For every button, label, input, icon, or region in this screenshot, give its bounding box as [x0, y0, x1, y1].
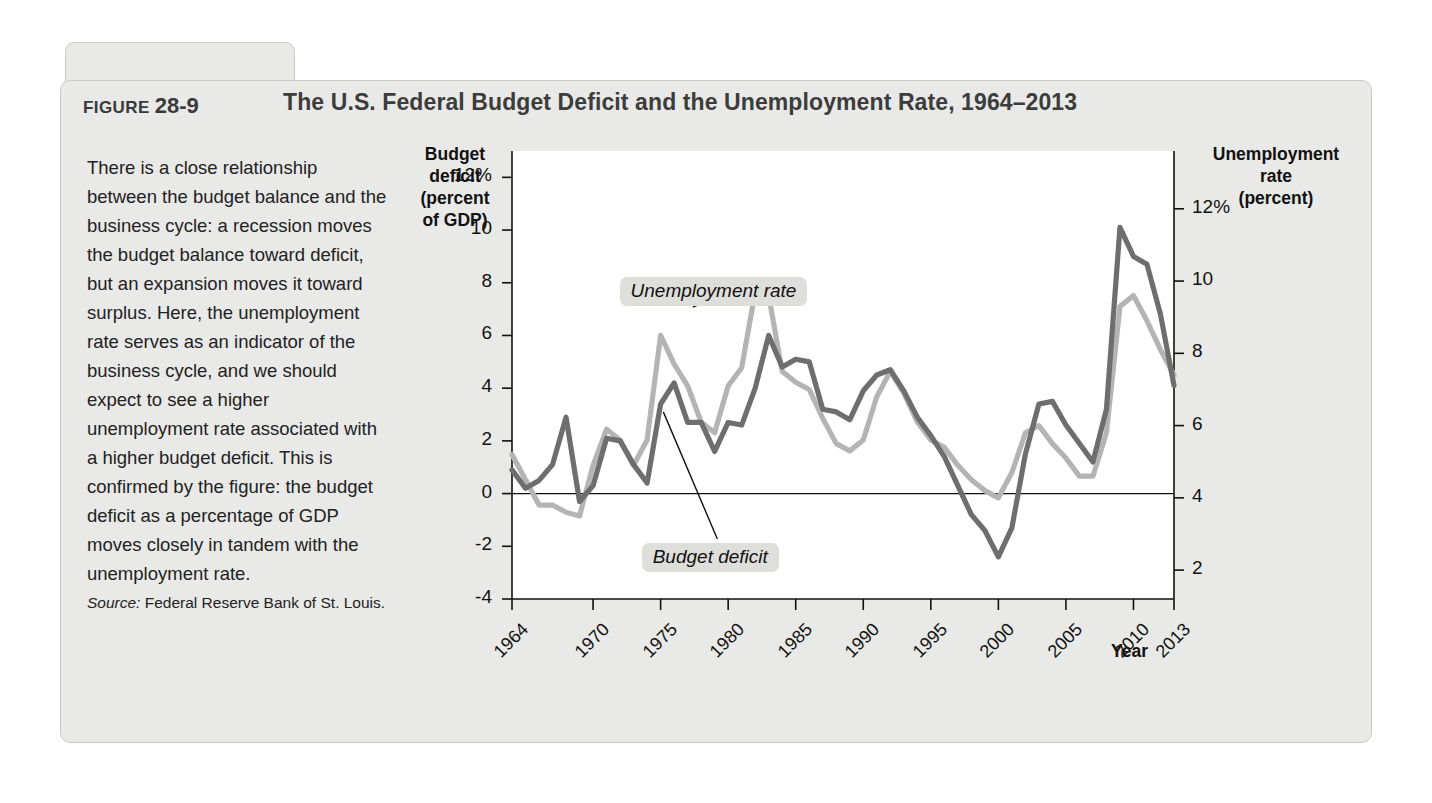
y-right-tick-4: 4 — [1192, 485, 1252, 507]
y-left-tick-1: 10 — [434, 217, 492, 239]
figure-number: 28-9 — [155, 93, 199, 118]
y-left-tick-6: 0 — [434, 481, 492, 503]
figure-label: FIGURE 28-9 — [83, 93, 199, 119]
x-axis-title: Year — [1111, 641, 1148, 662]
caption-source: Source: Federal Reserve Bank of St. Loui… — [87, 592, 392, 613]
figure-title: The U.S. Federal Budget Deficit and the … — [283, 89, 1077, 116]
y-right-tick-0: 12% — [1192, 196, 1252, 218]
figure-caption: There is a close relationship between th… — [87, 153, 392, 613]
figure-header: FIGURE 28-9 The U.S. Federal Budget Defi… — [61, 81, 1373, 127]
series-annotation-deficit: Budget deficit — [642, 543, 779, 572]
y-left-tick-8: -4 — [434, 586, 492, 608]
series-annotation-unemployment: Unemployment rate — [620, 277, 808, 306]
figure-page: FIGURE 28-9 The U.S. Federal Budget Defi… — [0, 0, 1432, 803]
y-left-tick-3: 6 — [434, 322, 492, 344]
source-text: Federal Reserve Bank of St. Louis. — [140, 594, 385, 611]
figure-label-word: FIGURE — [83, 98, 150, 117]
figure-tab — [65, 42, 295, 84]
y-left-tick-5: 2 — [434, 428, 492, 450]
chart-area: Budget deficit (percent of GDP) Unemploy… — [421, 141, 1341, 701]
y-left-tick-2: 8 — [434, 270, 492, 292]
y-right-tick-2: 8 — [1192, 340, 1252, 362]
series-lines — [512, 227, 1174, 556]
y-right-tick-1: 10 — [1192, 268, 1252, 290]
y-right-tick-5: 2 — [1192, 557, 1252, 579]
y-left-tick-4: 4 — [434, 375, 492, 397]
axis-lines — [502, 151, 1184, 610]
figure-body: FIGURE 28-9 The U.S. Federal Budget Defi… — [60, 80, 1372, 743]
caption-body: There is a close relationship between th… — [87, 157, 386, 584]
annotation-leader-lines — [663, 285, 744, 539]
y-right-tick-3: 6 — [1192, 413, 1252, 435]
y-left-tick-0: 12% — [434, 164, 492, 186]
figure-container: FIGURE 28-9 The U.S. Federal Budget Defi… — [60, 42, 1372, 743]
source-label: Source: — [87, 594, 140, 611]
y-left-tick-7: -2 — [434, 533, 492, 555]
